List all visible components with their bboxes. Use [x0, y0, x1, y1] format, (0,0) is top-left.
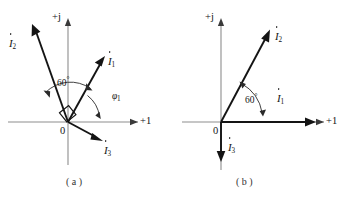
- phasor-label-i2-a: I2: [9, 38, 16, 49]
- real-axis-label-b: +1: [326, 116, 337, 127]
- origin-label-b: 0: [213, 126, 218, 137]
- phasor-i3-a-sub: 3: [107, 150, 111, 158]
- phasor-i2-a: [32, 24, 68, 122]
- panel-b: +1 +j 0 I1 I2 I3 60° ( b ): [176, 0, 351, 199]
- panel-b-diagram: [176, 0, 351, 199]
- caption-b: ( b ): [236, 177, 253, 187]
- angle-arc-phi-a: [88, 96, 101, 120]
- real-axis-label-a: +1: [140, 116, 151, 127]
- phasor-i2-b-sub: 2: [278, 36, 282, 44]
- phasor-i3-b-sub: 3: [231, 147, 235, 155]
- phasor-i1-b: [221, 118, 316, 127]
- phasor-label-i1-b: I1: [277, 93, 284, 104]
- panel-a-diagram: [0, 0, 176, 199]
- phasor-figure: +1 +j 0 I1 I2 I3 60° φ1 ( a ): [0, 0, 351, 199]
- phasor-label-i3-a: I3: [104, 145, 111, 156]
- phasor-i1-b-sub: 1: [280, 98, 284, 106]
- phasor-i3-a: [68, 122, 103, 141]
- imaginary-axis-a: [65, 18, 71, 165]
- phasor-i2-a-sub: 2: [12, 43, 16, 51]
- caption-a: ( a ): [66, 177, 82, 187]
- phasor-label-i1-a: I1: [108, 56, 115, 67]
- origin-label-a: 0: [60, 126, 65, 137]
- panel-a: +1 +j 0 I1 I2 I3 60° φ1 ( a ): [0, 0, 176, 199]
- phasor-i2-b: [221, 30, 270, 123]
- angle-label-60-b: 60°: [245, 93, 258, 106]
- phasor-label-i2-b: I2: [275, 31, 282, 42]
- angle-label-60-a: 60°: [57, 76, 70, 89]
- imaginary-axis-label-b: +j: [205, 12, 214, 23]
- phasor-label-i3-b: I3: [228, 142, 235, 153]
- phasor-i1-a-sub: 1: [111, 61, 115, 69]
- angle-label-phi-a: φ1: [112, 92, 121, 102]
- imaginary-axis-label-a: +j: [52, 12, 61, 23]
